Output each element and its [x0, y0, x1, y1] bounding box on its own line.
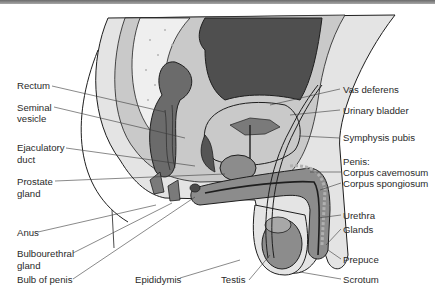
label-ejaculatory-duct-line1: Ejaculatory [17, 142, 64, 153]
label-seminal-vesicle-line1: Seminal [17, 102, 52, 113]
label-bulb-of-penis: Bulb of penis [17, 274, 72, 285]
label-bulbourethral-gland-line2: gland [17, 260, 40, 271]
label-prostate-gland-line2: gland [17, 188, 40, 199]
label-corpus-cavernosum: Corpus cavemosum [343, 167, 428, 178]
label-corpus-spongiosum: Corpus spongiosum [343, 178, 428, 189]
label-seminal-vesicle-line2: vesicle [17, 113, 46, 124]
label-anus: Anus [17, 227, 39, 238]
label-ejaculatory-duct-line2: duct [17, 154, 35, 165]
intestine-region [199, 18, 322, 100]
label-urinary-bladder: Urinary bladder [343, 105, 409, 116]
label-rectum: Rectum [17, 80, 50, 91]
label-prostate-gland-line1: Prostate [17, 176, 53, 187]
label-penis: Penis: [343, 156, 370, 167]
label-testis: Testis [221, 274, 246, 285]
label-vas-deferens: Vas deferens [343, 84, 399, 95]
label-epididymis: Epididymis [135, 274, 181, 285]
label-urethra: Urethra [343, 210, 375, 221]
label-prepuce: Prepuce [343, 254, 379, 265]
label-glands: Glands [343, 224, 373, 235]
label-scrotum: Scrotum [343, 274, 379, 285]
label-bulbourethral-gland-line1: Bulbourethral [17, 248, 74, 259]
label-symphysis-pubis: Symphysis pubis [343, 132, 415, 143]
